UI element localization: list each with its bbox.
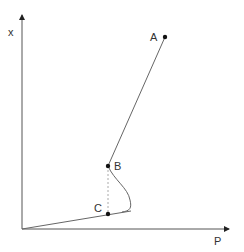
point-c-label: C [94, 202, 102, 214]
point-a-label: A [150, 31, 158, 43]
y-axis-label: x [8, 26, 14, 38]
upper-branch-line [108, 37, 165, 166]
point-b [106, 164, 110, 168]
transition-curve [108, 166, 131, 212]
x-axis-label: P [214, 235, 221, 247]
diagram-canvas: x P A B C [0, 0, 244, 252]
point-c [106, 212, 110, 216]
point-b-label: B [114, 160, 121, 172]
lower-branch-line [22, 211, 131, 229]
point-a [163, 35, 167, 39]
